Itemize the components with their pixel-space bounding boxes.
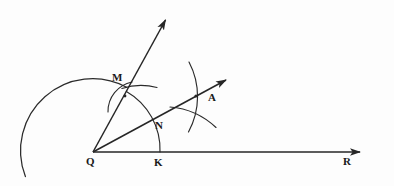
large-arc-left [21,79,127,177]
point-m [124,95,127,98]
vertex-label-n: N [155,120,163,131]
vertex-label-a: A [208,92,216,103]
vertex-label-k: K [154,157,163,168]
vertex-label-m: M [112,72,122,83]
figure-canvas [0,0,394,186]
arc-stub-right-of-m [122,85,157,88]
geometry-figure: Q K M N A R [0,0,394,186]
arc-from-k-through-a [170,107,216,128]
vertex-label-r: R [343,156,351,167]
vertex-label-q: Q [86,156,95,167]
point-a [194,94,197,97]
